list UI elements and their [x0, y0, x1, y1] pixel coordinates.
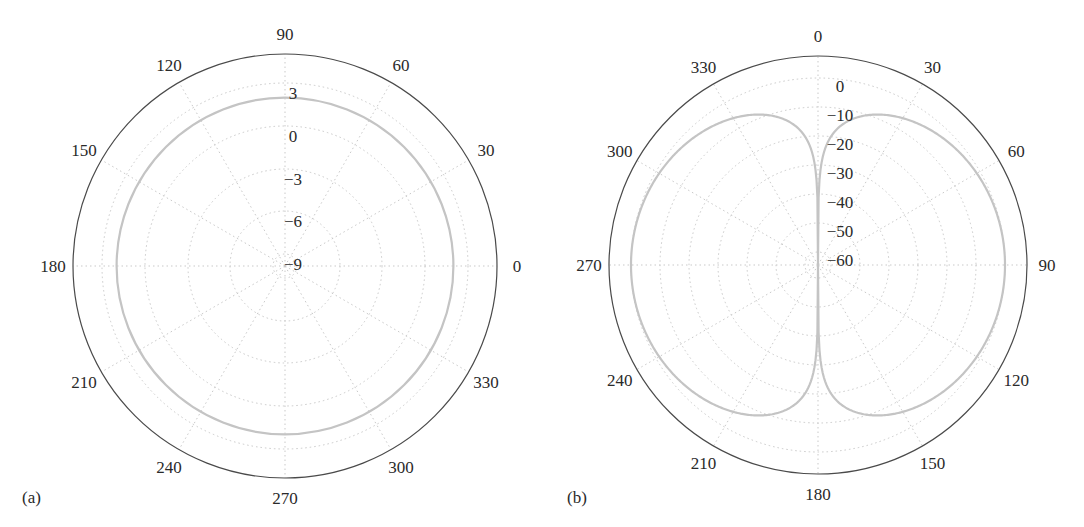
angle-tick-label: 240: [607, 371, 633, 390]
angle-tick-label: 210: [691, 454, 717, 473]
angle-tick-label: 0: [513, 257, 522, 276]
angle-tick-label: 330: [473, 373, 499, 392]
angle-tick-label: 30: [477, 141, 494, 160]
figure: 030609012015018021024027030033030−3−6−9 …: [0, 0, 1084, 527]
radial-tick-label: −30: [827, 164, 854, 183]
grid-spoke: [285, 266, 391, 450]
grid-spoke: [285, 266, 469, 372]
angle-tick-label: 240: [156, 458, 182, 477]
radial-tick-label: −60: [827, 251, 854, 270]
grid-spoke: [637, 161, 818, 266]
angle-tick-label: 210: [71, 373, 97, 392]
grid-spoke: [101, 160, 285, 266]
grid-spoke: [818, 265, 923, 446]
angle-tick-label: 270: [576, 256, 602, 275]
grid-spoke: [179, 266, 285, 450]
radial-tick-label: −10: [827, 106, 854, 125]
angle-tick-label: 150: [920, 454, 946, 473]
angle-tick-label: 150: [71, 141, 97, 160]
polar-chart-b: 03060901201501802102402703003300−10−20−3…: [576, 27, 1055, 504]
angle-tick-label: 270: [272, 489, 298, 508]
radial-tick-label: 0: [289, 127, 298, 146]
angle-tick-label: 330: [691, 58, 717, 77]
radial-tick-label: −40: [827, 193, 854, 212]
grid-spoke: [101, 266, 285, 372]
angle-tick-label: 120: [156, 56, 182, 75]
grid-spoke: [714, 84, 819, 265]
angle-tick-label: 90: [277, 25, 294, 44]
grid-spoke: [285, 160, 469, 266]
radial-tick-label: 3: [289, 84, 298, 103]
angle-tick-label: 180: [805, 485, 831, 504]
angle-tick-label: 30: [924, 58, 941, 77]
angle-tick-label: 0: [814, 27, 823, 46]
panel-label-a: (a): [22, 488, 41, 507]
radial-tick-label: 0: [836, 77, 845, 96]
radial-tick-label: −50: [827, 222, 854, 241]
angle-tick-label: 300: [607, 142, 633, 161]
angle-tick-label: 60: [1008, 142, 1025, 161]
grid-spoke: [637, 265, 818, 370]
grid-spoke: [714, 265, 819, 446]
grid-spoke: [818, 265, 999, 370]
radial-tick-label: −6: [284, 212, 302, 231]
radial-tick-label: −3: [284, 170, 302, 189]
polar-chart-a: 030609012015018021024027030033030−3−6−9: [40, 25, 521, 508]
radial-tick-label: −9: [284, 255, 302, 274]
angle-tick-label: 60: [393, 56, 410, 75]
angle-tick-label: 300: [388, 458, 414, 477]
angle-tick-label: 180: [40, 257, 66, 276]
grid-spoke: [179, 82, 285, 266]
radial-tick-label: −20: [827, 135, 854, 154]
angle-tick-label: 90: [1039, 256, 1056, 275]
angle-tick-label: 120: [1004, 371, 1030, 390]
panel-label-b: (b): [567, 488, 587, 507]
